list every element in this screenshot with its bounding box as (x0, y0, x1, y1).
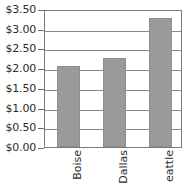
y-axis-tick-label: $3.50 (6, 4, 37, 15)
y-axis-tick-mark (38, 89, 44, 90)
y-axis-tick-mark (38, 109, 44, 110)
y-axis-tick-mark (38, 148, 44, 149)
y-axis-tick-mark (38, 128, 44, 129)
x-axis-category-label: eattle (164, 150, 175, 182)
y-axis-tick-label: $3.00 (6, 24, 37, 35)
y-axis-tick-label: $2.00 (6, 63, 37, 74)
bar-chart: $3.50$3.00$2.50$2.00$1.50$1.00$0.50$0.00… (0, 0, 187, 189)
y-axis-tick-mark (38, 69, 44, 70)
plot-area (44, 10, 182, 148)
x-axis-category-label: Boise (72, 150, 83, 180)
y-axis-tick-mark (38, 10, 44, 11)
bars-group (45, 11, 181, 147)
y-axis: $3.50$3.00$2.50$2.00$1.50$1.00$0.50$0.00 (0, 0, 38, 189)
y-axis-tick-label: $0.00 (6, 142, 37, 153)
y-axis-tick-label: $0.50 (6, 122, 37, 133)
y-axis-tick-label: $1.50 (6, 83, 37, 94)
y-axis-tick-mark (38, 49, 44, 50)
bar (57, 66, 80, 147)
y-axis-tick-label: $2.50 (6, 43, 37, 54)
x-axis-category-label: Dallas (118, 150, 129, 184)
y-axis-tick-label: $1.00 (6, 103, 37, 114)
bar (149, 18, 172, 147)
bar (103, 58, 126, 147)
x-axis: BoiseDallaseattle (44, 150, 187, 189)
y-axis-tick-mark (38, 30, 44, 31)
